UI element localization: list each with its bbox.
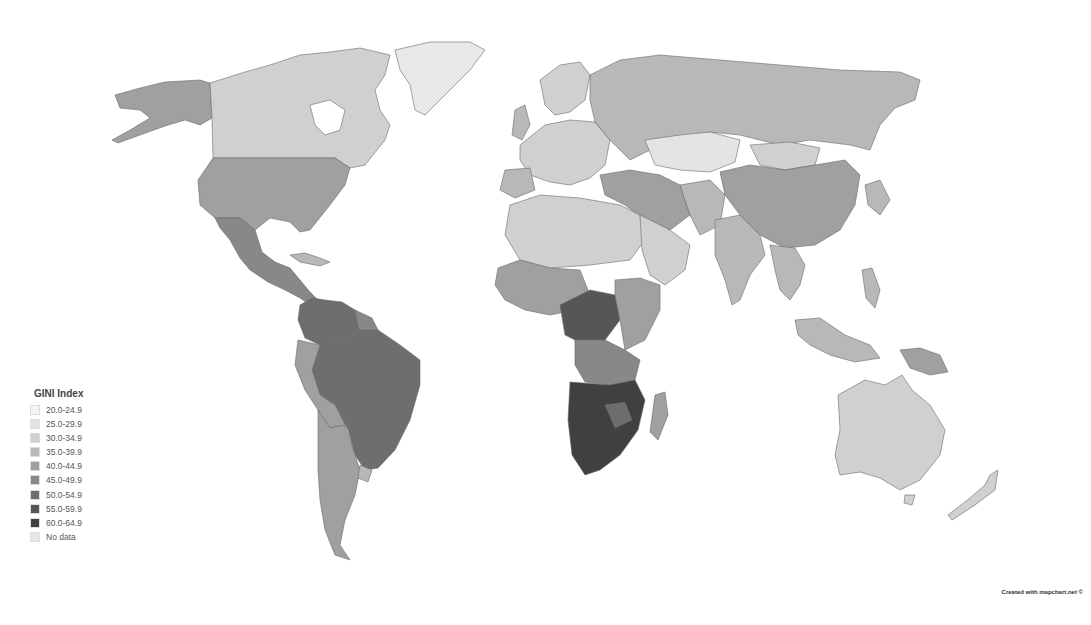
- region-southeast-asia[interactable]: [770, 245, 805, 300]
- world-map: [0, 0, 1091, 625]
- region-europe-west[interactable]: [520, 120, 610, 185]
- credit-text: Created with mapchart.net ©: [1002, 589, 1083, 595]
- region-alaska[interactable]: [112, 80, 212, 143]
- legend-item: 45.0-49.9: [30, 474, 120, 487]
- legend-swatch: [30, 447, 40, 457]
- legend-item: 20.0-24.9: [30, 403, 120, 416]
- legend: GINI Index 20.0-24.9 25.0-29.9 30.0-34.9…: [30, 388, 120, 545]
- legend-item: No data: [30, 531, 120, 544]
- legend-swatch: [30, 405, 40, 415]
- region-greenland[interactable]: [395, 42, 485, 115]
- region-southern-africa[interactable]: [568, 380, 645, 475]
- region-caribbean[interactable]: [290, 253, 330, 266]
- region-philippines[interactable]: [862, 268, 880, 308]
- region-indonesia[interactable]: [795, 318, 880, 362]
- legend-item: 25.0-29.9: [30, 417, 120, 430]
- region-scandinavia[interactable]: [540, 62, 590, 115]
- legend-swatch: [30, 532, 40, 542]
- region-new-zealand[interactable]: [948, 470, 998, 520]
- legend-swatch: [30, 475, 40, 485]
- legend-swatch: [30, 419, 40, 429]
- region-east-africa[interactable]: [615, 278, 660, 350]
- legend-title: GINI Index: [34, 388, 120, 399]
- region-uk[interactable]: [512, 105, 530, 140]
- region-canada[interactable]: [210, 48, 390, 168]
- legend-swatch: [30, 504, 40, 514]
- legend-item: 55.0-59.9: [30, 502, 120, 515]
- legend-swatch: [30, 461, 40, 471]
- legend-item: 40.0-44.9: [30, 460, 120, 473]
- region-papua-new-guinea[interactable]: [900, 348, 948, 375]
- region-kazakhstan[interactable]: [645, 132, 740, 172]
- legend-swatch: [30, 490, 40, 500]
- legend-item: 50.0-54.9: [30, 488, 120, 501]
- legend-swatch: [30, 433, 40, 443]
- region-iberia[interactable]: [500, 168, 535, 198]
- region-australia[interactable]: [835, 375, 945, 490]
- legend-item: 60.0-64.9: [30, 517, 120, 530]
- region-north-africa[interactable]: [505, 195, 645, 268]
- legend-item: 30.0-34.9: [30, 431, 120, 444]
- region-tasmania[interactable]: [904, 495, 915, 505]
- region-madagascar[interactable]: [650, 392, 668, 440]
- region-russia[interactable]: [590, 55, 920, 160]
- legend-item: 35.0-39.9: [30, 446, 120, 459]
- legend-swatch: [30, 518, 40, 528]
- region-korea-japan[interactable]: [865, 180, 890, 215]
